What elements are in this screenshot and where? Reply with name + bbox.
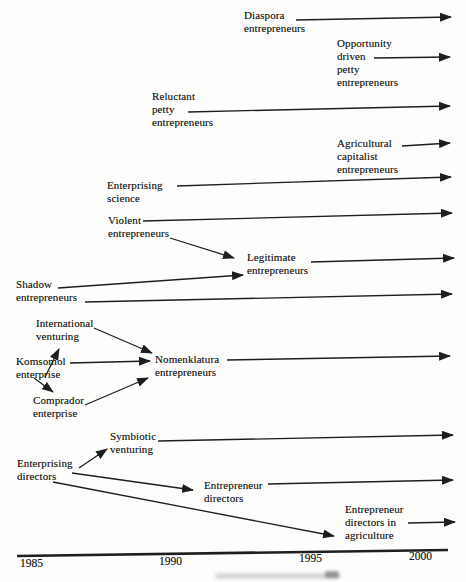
label-nomenklatura-entrepreneurs: Nomenklatura entrepreneurs [155,353,219,379]
label-entrepreneur-directors: Entrepreneur directors [204,479,263,505]
axis-year-1995: 1995 [299,552,322,564]
label-reluctant-petty-entrepreneurs: Reluctant petty entrepreneurs [152,90,213,129]
arrow-komsomol-to-nomenklatura [70,361,150,363]
arrow-reluctant [188,106,450,112]
label-international-venturing: International venturing [36,317,94,343]
arrow-agricultural [402,143,450,146]
label-diaspora-entrepreneurs: Diaspora entrepreneurs [244,9,305,35]
label-entrepreneur-directors-in-agriculture: Entrepreneur directors in agriculture [345,503,404,542]
arrow-agriculture [408,522,455,523]
cut-off-caption-smudge [215,574,340,578]
arrow-shadow [85,294,452,302]
arrow-nomenklatura [227,356,450,360]
label-opportunity-driven-petty-entrepreneurs: Opportunity driven petty entrepreneurs [337,37,398,89]
entrepreneur-timeline-diagram: Diaspora entrepreneurs Opportunity drive… [0,0,466,582]
label-violent-entrepreneurs: Violent entrepreneurs [108,214,169,240]
arrow-violent-to-legitimate [170,238,234,258]
label-enterprising-science: Enterprising science [107,179,163,205]
arrow-shadow-to-legitimate [58,275,243,288]
label-symbiotic-venturing: Symbiotic venturing [110,430,156,456]
label-shadow-entrepreneurs: Shadow entrepreneurs [16,278,77,304]
arrow-international-to-nomenklatura [94,328,152,353]
arrow-directors-to-agriculture [53,482,334,536]
label-comprador-enterprise: Comprador enterprise [33,394,84,420]
arrow-enterprising-science [177,177,451,186]
axis-year-1990: 1990 [159,555,182,567]
arrow-directors-to-entrepreneur-directors [72,473,193,490]
label-enterprising-directors: Enterprising directors [17,457,73,483]
label-komsomol-enterprise: Komsomol enterprise [16,355,66,381]
arrow-legitimate [311,258,454,262]
arrow-violent [143,213,452,221]
label-agricultural-capitalist-entrepreneurs: Agricultural capitalist entrepreneurs [337,137,398,176]
label-legitimate-entrepreneurs: Legitimate entrepreneurs [247,251,308,277]
axis-year-2000: 2000 [409,550,432,562]
cut-off-caption-smudge-mark [325,571,339,578]
timeline-axis [17,550,448,556]
arrow-comprador-to-nomenklatura [85,378,148,405]
arrow-diaspora [296,17,451,20]
arrow-entrepreneur-directors [268,480,453,484]
arrow-symbiotic [158,435,453,441]
axis-year-1985: 1985 [20,557,43,569]
arrow-directors-to-symbiotic [79,449,107,468]
